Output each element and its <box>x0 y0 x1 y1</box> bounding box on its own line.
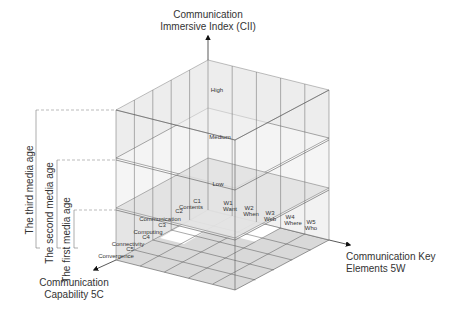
5w-axis-arrow <box>329 240 350 245</box>
5w-axis-title-1: Communication Key <box>346 251 435 262</box>
5c-axis-title-1: Communication <box>39 277 108 288</box>
level-medium: Medium <box>209 134 230 140</box>
svg-text:C3: C3 <box>158 222 166 228</box>
svg-text:Web: Web <box>264 216 277 222</box>
cii-cube-diagram: Communication Immersive Index (CII) Comm… <box>0 0 452 309</box>
svg-text:C2: C2 <box>175 208 183 214</box>
5c-axis-arrow <box>94 260 116 270</box>
svg-text:Convergence: Convergence <box>98 253 134 259</box>
cii-axis-title-2: Immersive Index (CII) <box>160 21 256 32</box>
svg-text:Where: Where <box>284 220 302 226</box>
5c-axis-title-2: Capability 5C <box>44 289 103 300</box>
svg-text:Who: Who <box>305 225 318 231</box>
svg-text:C4: C4 <box>142 234 150 240</box>
level-high: High <box>211 87 223 93</box>
cii-axis-title-1: Communication <box>173 9 242 20</box>
svg-text:Want: Want <box>223 206 237 212</box>
svg-text:C5: C5 <box>126 246 134 252</box>
5w-axis-title-2: Elements 5W <box>346 263 406 274</box>
age-third: The third media age <box>24 145 35 234</box>
svg-text:When: When <box>243 211 259 217</box>
age-second: The second media age <box>44 162 55 264</box>
level-low: Low <box>212 181 224 187</box>
age-first: The first media age <box>61 197 72 283</box>
